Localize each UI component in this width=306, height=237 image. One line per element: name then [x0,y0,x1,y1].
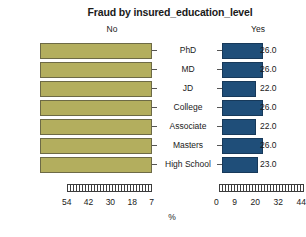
category-label: MD [156,64,220,75]
left-bar-track [40,62,152,78]
category-label: PhD [156,45,220,56]
left-tick-label: 30 [106,196,115,208]
right-bar [222,138,263,154]
chart-row: 74.0MD26.0 [0,61,306,80]
chart-rows: 74.0PhD26.074.0MD26.078.0JD22.074.0Colle… [0,42,306,175]
right-value-label: 26.0 [260,64,277,75]
right-bar [222,62,263,78]
right-axis-tick-labels: 09203244 [214,196,306,208]
left-bar [40,119,152,135]
left-axis-ruler [67,184,152,192]
right-bar [222,157,258,173]
left-bar-track [40,43,152,59]
chart-row: 78.0Associate22.0 [0,118,306,137]
panel-header-no: No [92,24,132,34]
right-value-label: 26.0 [260,102,277,113]
chart-row: 74.0Masters26.0 [0,137,306,156]
left-bar-track [40,138,152,154]
right-bar [222,81,256,97]
left-bar [40,100,152,116]
right-value-label: 26.0 [260,45,277,56]
chart-title: Fraud by insured_education_level [0,6,306,18]
chart-row: 77.0High School23.0 [0,156,306,175]
category-label: High School [156,159,220,170]
left-bar [40,62,152,78]
right-axis-ruler [219,184,304,192]
left-bar [40,138,152,154]
chart-row: 78.0JD22.0 [0,80,306,99]
left-bar [40,81,152,97]
right-value-label: 22.0 [260,83,277,94]
bilateral-bar-chart: Fraud by insured_education_level No Yes … [0,0,306,237]
chart-row: 74.0College26.0 [0,99,306,118]
left-tick-label: 42 [84,196,93,208]
left-bar-track [40,81,152,97]
left-bar [40,157,152,173]
chart-row: 74.0PhD26.0 [0,42,306,61]
axis-caption: % [0,212,306,222]
left-bar-track [40,100,152,116]
right-tick-label: 20 [251,196,260,208]
right-value-label: 22.0 [260,121,277,132]
category-label: Associate [156,121,220,132]
category-label: Masters [156,140,220,151]
right-tick-label: 9 [232,196,237,208]
left-bar-track [40,119,152,135]
left-tick-label: 7 [149,196,154,208]
right-bar [222,119,256,135]
left-bar-track [40,157,152,173]
right-tick-label: 44 [297,196,306,208]
category-label: JD [156,83,220,94]
right-tick-label: 0 [214,196,219,208]
right-tick-label: 32 [274,196,283,208]
right-value-label: 23.0 [260,159,277,170]
left-tick-label: 18 [127,196,136,208]
right-value-label: 26.0 [260,140,277,151]
right-bar [222,43,263,59]
left-bar [40,43,152,59]
left-tick-label: 54 [62,196,71,208]
left-axis-tick-labels: 544230187 [62,196,154,208]
right-bar [222,100,263,116]
panel-header-yes: Yes [238,24,278,34]
category-label: College [156,102,220,113]
